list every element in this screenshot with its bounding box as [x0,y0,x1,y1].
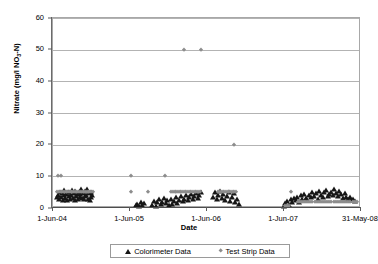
y-axis-title-tail: -N) [12,43,21,53]
gridline [53,81,359,82]
gridline [53,113,359,114]
data-point [236,201,242,206]
y-axis-tick-mark [48,80,52,81]
x-axis-tick-mark [283,207,284,211]
y-axis-tick-label: 60 [36,14,44,22]
data-point [289,190,294,195]
gridline [53,145,359,146]
x-axis-tick-mark [206,207,207,211]
gridline [53,176,359,177]
y-axis-tick-mark [48,17,52,18]
legend-label-colorimeter: Colorimeter Data [134,247,191,256]
y-axis-tick-mark [48,49,52,50]
x-axis-tick-mark [52,207,53,211]
data-point [198,47,203,52]
x-axis-tick-label: 1-Jun-06 [191,214,221,223]
x-axis-tick-label: 1-Jun-04 [37,214,67,223]
plot-area [52,17,360,207]
y-axis-tick-label: 40 [36,77,44,85]
legend-item-colorimeter: Colorimeter Data [125,247,191,256]
data-point [354,199,359,204]
y-axis-title: Nitrate (mg/l NO3-N) [12,19,21,139]
gridline [53,18,359,19]
diamond-marker-icon [219,249,224,254]
y-axis-tick-label: 10 [36,172,44,180]
legend-item-test-strip: Test Strip Data [219,247,275,256]
x-axis-tick-label: 31-May-08 [342,214,378,223]
y-axis-tick-label: 50 [36,45,44,53]
y-axis-ticks: 0102030405060 [0,17,52,208]
nitrate-scatter-chart: 0102030405060 Nitrate (mg/l NO3-N) 1-Jun… [0,0,378,264]
legend-label-test-strip: Test Strip Data [226,247,275,256]
x-axis-tick-mark [360,207,361,211]
data-point [181,47,186,52]
x-axis-tick-label: 1-Jun-07 [268,214,298,223]
x-axis-title: Date [0,223,378,232]
data-point [129,174,134,179]
y-axis-tick-mark [48,112,52,113]
chart-legend: Colorimeter Data Test Strip Data [110,244,290,258]
x-axis-tick-label: 1-Jun-05 [114,214,144,223]
y-axis-tick-label: 20 [36,140,44,148]
gridline [53,50,359,51]
data-point [129,190,134,195]
y-axis-tick-mark [48,144,52,145]
data-point [162,174,167,179]
y-axis-tick-mark [48,175,52,176]
x-axis-tick-mark [129,207,130,211]
y-axis-title-main: Nitrate (mg/l NO [12,57,21,114]
data-point [145,190,150,195]
data-point [141,201,147,206]
y-axis-title-subscript: 3 [15,54,21,57]
data-point [232,142,237,147]
data-point [58,174,63,179]
triangle-marker-icon [125,249,131,254]
y-axis-tick-label: 30 [36,109,44,117]
